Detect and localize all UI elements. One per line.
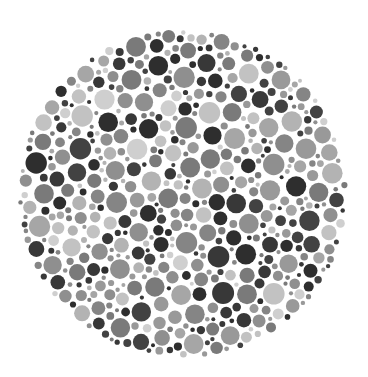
- dot: [130, 209, 138, 217]
- dot: [266, 322, 276, 332]
- dot: [70, 138, 91, 159]
- dot: [106, 302, 112, 308]
- dot: [206, 323, 219, 336]
- dot: [269, 203, 276, 210]
- dot: [135, 93, 153, 111]
- dot: [59, 290, 72, 303]
- dot: [304, 197, 308, 201]
- dot: [183, 151, 188, 156]
- dot: [309, 160, 315, 166]
- dot: [248, 177, 254, 183]
- dot: [95, 147, 101, 153]
- dot: [102, 233, 113, 244]
- dot: [176, 117, 197, 138]
- dot: [261, 138, 267, 144]
- dot: [48, 163, 56, 171]
- dot: [170, 130, 175, 135]
- dot: [110, 259, 130, 279]
- dot: [20, 175, 32, 187]
- dot: [286, 205, 297, 216]
- dot: [49, 149, 54, 154]
- dot: [260, 180, 280, 200]
- dot: [171, 163, 175, 167]
- dot: [21, 169, 25, 173]
- dot: [149, 155, 162, 168]
- dot: [95, 281, 106, 292]
- dot: [170, 54, 180, 64]
- dot: [50, 131, 55, 136]
- dot: [56, 86, 67, 97]
- dot: [142, 274, 147, 279]
- dot: [77, 183, 82, 188]
- dot: [289, 279, 300, 290]
- dot: [232, 188, 237, 193]
- dot: [22, 222, 28, 228]
- dot: [216, 238, 223, 245]
- dot: [116, 48, 124, 56]
- dot: [333, 187, 338, 192]
- dot: [90, 125, 94, 129]
- dot: [102, 331, 109, 338]
- dot: [183, 323, 188, 328]
- dot: [189, 61, 196, 68]
- dot: [278, 206, 282, 210]
- dot: [213, 177, 229, 193]
- dot: [262, 237, 278, 253]
- dot: [161, 100, 177, 116]
- dot: [252, 91, 269, 108]
- dot: [77, 282, 82, 287]
- dot: [91, 190, 105, 204]
- dot: [194, 273, 208, 287]
- dot: [93, 77, 104, 88]
- dot: [234, 156, 242, 164]
- dot: [90, 291, 97, 298]
- dot: [72, 127, 81, 136]
- dot: [87, 323, 92, 328]
- dot: [193, 102, 199, 108]
- dot: [87, 86, 93, 92]
- dot: [103, 68, 108, 73]
- dot: [35, 114, 52, 131]
- dot: [211, 275, 219, 283]
- dot: [153, 317, 165, 329]
- dot: [110, 248, 114, 252]
- dot: [56, 250, 61, 255]
- dot: [106, 161, 125, 180]
- dot: [118, 93, 133, 108]
- dot: [214, 34, 230, 50]
- dot: [180, 351, 187, 358]
- dot: [184, 185, 189, 190]
- dot: [224, 128, 245, 149]
- dot: [70, 103, 74, 107]
- dot: [90, 58, 95, 63]
- dot: [320, 118, 327, 125]
- dot: [296, 138, 317, 159]
- dot: [55, 138, 65, 148]
- dot: [289, 157, 295, 163]
- dot: [129, 274, 135, 280]
- dot: [257, 298, 263, 304]
- dot: [105, 47, 113, 55]
- dot: [87, 286, 92, 291]
- dot: [98, 205, 104, 211]
- dot: [51, 275, 66, 290]
- dot: [115, 340, 120, 345]
- dot: [143, 324, 152, 333]
- dot: [313, 99, 318, 104]
- dot: [127, 139, 148, 160]
- dot: [94, 89, 114, 109]
- dot: [52, 291, 57, 296]
- dot: [45, 100, 59, 114]
- dot: [297, 273, 301, 277]
- dot: [144, 33, 151, 40]
- dot: [133, 262, 144, 273]
- dot: [214, 212, 228, 226]
- dot: [289, 291, 293, 295]
- dot: [261, 154, 265, 158]
- dot: [173, 255, 188, 270]
- dot: [260, 223, 266, 229]
- dot: [114, 129, 129, 144]
- dot: [307, 170, 318, 181]
- dot: [186, 95, 192, 101]
- dot: [259, 253, 263, 257]
